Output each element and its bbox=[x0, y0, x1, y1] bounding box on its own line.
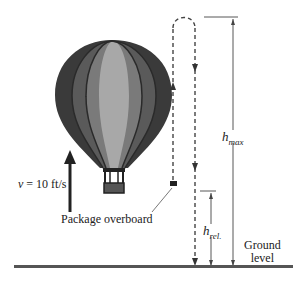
package-icon bbox=[170, 181, 177, 186]
down-arrow-icon bbox=[192, 163, 198, 171]
velocity-value: = 10 ft/s bbox=[23, 177, 66, 191]
h-max-base: h bbox=[222, 129, 229, 144]
down-arrow-icon bbox=[192, 258, 198, 266]
ground-line bbox=[14, 265, 293, 268]
package-label: Package overboard bbox=[61, 213, 153, 225]
h-rel-base: h bbox=[203, 223, 210, 238]
trajectory-path bbox=[173, 18, 195, 266]
ground-level-label: Ground level bbox=[244, 239, 281, 265]
h-max-sub: max bbox=[229, 137, 244, 147]
down-arrow-icon bbox=[192, 64, 198, 72]
hot-air-balloon-icon bbox=[55, 40, 172, 193]
ground-label-line2: level bbox=[244, 252, 281, 265]
h-max-label: hmax bbox=[222, 130, 244, 143]
h-rel-sub: rel. bbox=[210, 231, 222, 241]
h-rel-label: hrel. bbox=[203, 224, 221, 237]
velocity-label: v = 10 ft/s bbox=[18, 178, 66, 190]
package-leader-line bbox=[152, 188, 172, 212]
